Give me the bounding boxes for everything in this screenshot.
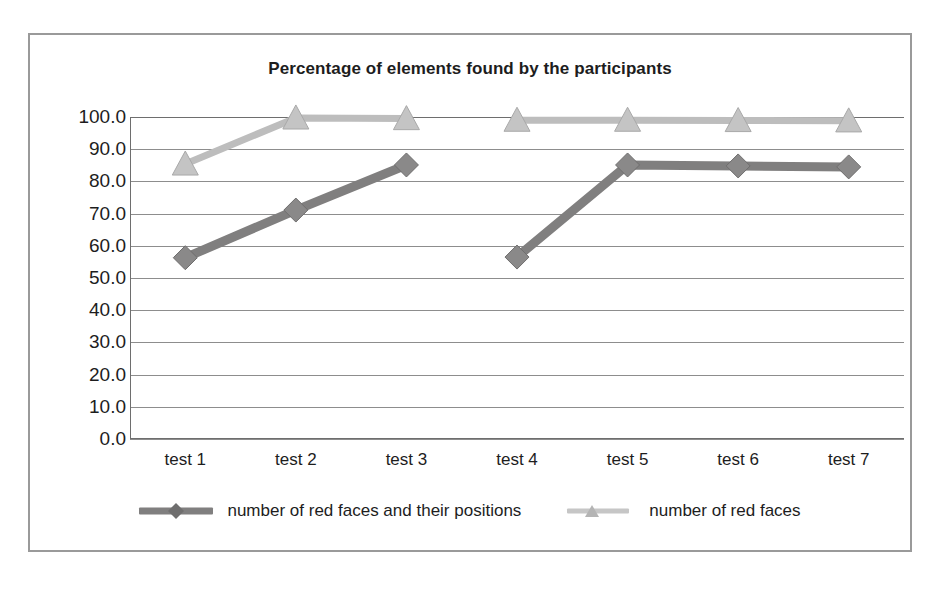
y-tick-label: 30.0 <box>89 331 126 353</box>
x-tick-label: test 3 <box>386 450 428 470</box>
series-line <box>517 120 849 121</box>
data-point-diamond-icon <box>394 153 418 177</box>
x-tick-label: test 4 <box>496 450 538 470</box>
chart-legend: number of red faces and their positions … <box>30 501 910 521</box>
y-tick-label: 60.0 <box>89 235 126 257</box>
data-point-diamond-icon <box>837 155 861 179</box>
chart-frame: Percentage of elements found by the part… <box>28 33 912 552</box>
plot-area <box>130 117 904 439</box>
legend-swatch-diamond-icon <box>139 503 213 519</box>
y-axis: 0.010.020.030.040.050.060.070.080.090.01… <box>44 117 126 439</box>
chart-title: Percentage of elements found by the part… <box>30 59 910 79</box>
x-tick-label: test 6 <box>717 450 759 470</box>
legend-item-series-2[interactable]: number of red faces <box>561 501 800 521</box>
x-tick-label: test 5 <box>607 450 649 470</box>
series-line <box>517 165 849 257</box>
y-tick-label: 0.0 <box>100 428 126 450</box>
y-tick-label: 40.0 <box>89 299 126 321</box>
gridline <box>130 439 904 440</box>
series-1 <box>173 153 860 270</box>
x-tick-label: test 2 <box>275 450 317 470</box>
y-tick-label: 100.0 <box>78 106 126 128</box>
y-tick-label: 70.0 <box>89 203 126 225</box>
data-point-diamond-icon <box>726 154 750 178</box>
y-tick-label: 90.0 <box>89 138 126 160</box>
y-tick-label: 10.0 <box>89 396 126 418</box>
x-tick-label: test 7 <box>828 450 870 470</box>
legend-item-series-1[interactable]: number of red faces and their positions <box>139 501 521 521</box>
legend-label-series-2: number of red faces <box>649 501 800 521</box>
legend-swatch-triangle-icon <box>561 503 635 519</box>
series-layer <box>130 117 904 439</box>
y-tick-label: 20.0 <box>89 364 126 386</box>
x-tick-label: test 1 <box>164 450 206 470</box>
x-axis: test 1test 2test 3test 4test 5test 6test… <box>130 450 904 480</box>
legend-label-series-1: number of red faces and their positions <box>227 501 521 521</box>
y-tick-label: 80.0 <box>89 170 126 192</box>
y-tick-label: 50.0 <box>89 267 126 289</box>
